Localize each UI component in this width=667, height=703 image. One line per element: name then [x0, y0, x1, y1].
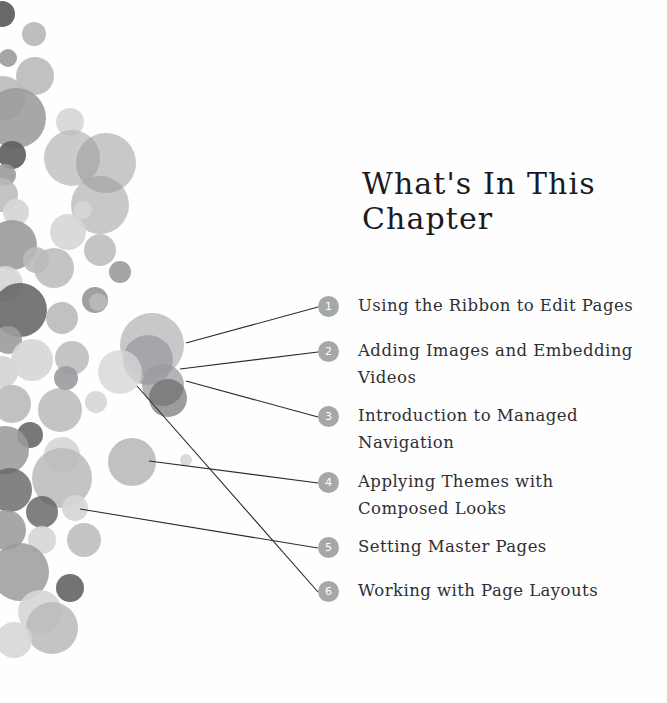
list-item-label: Setting Master Pages [358, 534, 648, 561]
list-item-label: Introduction to Managed Navigation [358, 403, 648, 456]
list-item-label: Applying Themes with Composed Looks [358, 469, 648, 522]
connector-line-4 [149, 461, 318, 483]
connector-line-6 [137, 386, 318, 592]
connector-line-3 [186, 381, 318, 417]
list-item-number-badge: 4 [318, 472, 339, 493]
list-item-number-badge: 5 [318, 537, 339, 558]
list-item-label: Working with Page Layouts [358, 578, 648, 605]
connector-line-5 [80, 509, 318, 548]
list-item-number-badge: 6 [318, 581, 339, 602]
connector-line-1 [186, 307, 318, 343]
list-item-label: Adding Images and Embedding Videos [358, 338, 648, 391]
list-item-number-badge: 1 [318, 296, 339, 317]
page-title: What's In This Chapter [362, 166, 652, 236]
list-item-label: Using the Ribbon to Edit Pages [358, 293, 648, 320]
list-item-number-badge: 3 [318, 406, 339, 427]
list-item-number-badge: 2 [318, 341, 339, 362]
chapter-opener-page: What's In This Chapter 1Using the Ribbon… [0, 0, 667, 703]
connector-line-2 [180, 352, 318, 369]
